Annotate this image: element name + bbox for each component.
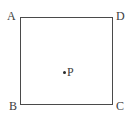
- point-label-p: P: [67, 66, 74, 78]
- vertex-label-a: A: [7, 10, 16, 22]
- point-dot-icon: [63, 71, 66, 74]
- vertex-label-c: C: [116, 100, 124, 112]
- vertex-label-d: D: [116, 10, 125, 22]
- square-outline: [20, 17, 113, 105]
- vertex-label-b: B: [9, 100, 17, 112]
- geometry-figure: A D B C P: [0, 0, 133, 122]
